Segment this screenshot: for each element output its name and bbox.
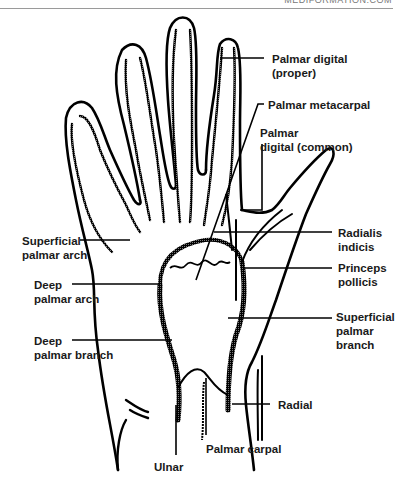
palmar-carpal-arch [178,369,228,440]
digital-arteries [72,30,235,252]
leader-lines [72,58,332,455]
label-ulnar: Ulnar [154,460,183,474]
forearm-outline [117,400,148,470]
label-palmar-digital-proper: Palmar digital (proper) [272,52,347,80]
label-radialis-indicis: Radialis indicis [338,226,382,254]
label-radial: Radial [278,398,313,412]
label-deep-palmar-arch: Deep palmar arch [34,278,99,306]
label-palmar-metacarpal: Palmar metacarpal [268,98,370,112]
label-palmar-digital-common: Palmar digital (common) [260,126,353,154]
ulnar-artery [160,285,180,420]
label-deep-palmar-branch: Deep palmar branch [34,334,113,362]
label-superficial-palmar-arch: Superficial palmar arch [22,234,87,262]
label-palmar-carpal: Palmar carpal [206,442,281,456]
label-superficial-palmar-branch: Superficial palmar branch [336,310,395,352]
label-princeps-pollicis: Princeps pollicis [338,261,387,289]
